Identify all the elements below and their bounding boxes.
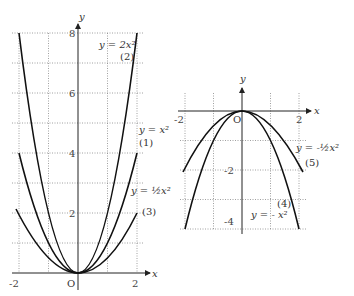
left-y-tick-4: 4 (69, 148, 75, 159)
label-num-5: (5) (305, 157, 319, 168)
left-x-tick-neg2: -2 (9, 278, 19, 289)
curve-neg-half-x2 (183, 111, 303, 172)
right-y-label: y (239, 73, 246, 84)
label-eq-4: y = - x² (250, 209, 288, 220)
left-origin-label: O (67, 278, 75, 289)
curve-half-x2 (16, 209, 137, 273)
right-x-tick-2: 2 (296, 114, 302, 125)
right-x-tick-neg2: -2 (174, 114, 184, 125)
label-eq-2: y = 2x² (98, 39, 135, 50)
left-y-tick-8: 8 (69, 28, 75, 39)
label-num-1: (1) (139, 137, 153, 148)
left-y-tick-6: 6 (69, 88, 75, 99)
right-origin-label: O (233, 114, 241, 125)
left-y-tick-2: 2 (69, 208, 75, 219)
right-y-tick-neg4: -4 (224, 216, 234, 227)
label-num-4: (4) (277, 198, 291, 209)
parabola-diagram: y x O -2 2 2 4 6 8 y = 2x² (2) y = x² (1… (0, 0, 354, 296)
left-x-label: x (152, 268, 158, 279)
label-num-3: (3) (142, 206, 156, 217)
left-graph: y x O -2 2 2 4 6 8 y = 2x² (2) y = x² (1… (9, 11, 171, 290)
label-eq-1: y = x² (138, 124, 169, 135)
label-eq-3: y = ½x² (130, 185, 171, 196)
label-num-2: (2) (120, 51, 134, 62)
right-x-label: x (314, 105, 320, 116)
right-y-tick-neg2: -2 (224, 165, 234, 176)
label-eq-5: y = -½x² (295, 142, 339, 153)
left-y-label: y (78, 11, 85, 22)
left-x-tick-2: 2 (132, 278, 138, 289)
right-graph: y x O -2 2 -2 -4 y = -½x² (5) (4) y = - … (174, 73, 339, 234)
